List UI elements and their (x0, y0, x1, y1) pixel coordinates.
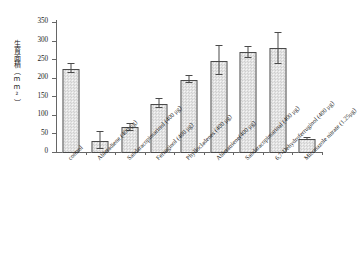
x-tick-label: Sandaracopimarinol (400 μg) (126, 105, 183, 162)
x-tick-label: control (67, 144, 84, 161)
x-tick-label: Miconazole nitrate (1.25μg) (303, 107, 358, 162)
x-tick-label: Sandaracopimarinal (400 μg) (244, 105, 301, 162)
